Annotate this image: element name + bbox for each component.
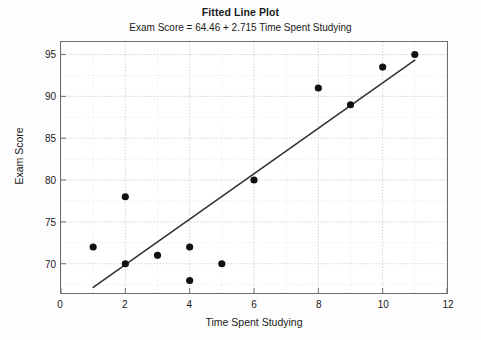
x-axis-ticks: 024681012 <box>60 299 448 315</box>
x-tick-label: 10 <box>368 299 398 310</box>
title-block: Fitted Line Plot Exam Score = 64.46 + 2.… <box>0 6 481 35</box>
fitted-line-plot: Fitted Line Plot Exam Score = 64.46 + 2.… <box>0 0 481 340</box>
y-tick-label: 90 <box>30 90 56 101</box>
data-point <box>154 252 161 259</box>
x-tick-label: 6 <box>239 299 269 310</box>
x-axis-title: Time Spent Studying <box>60 316 448 328</box>
regression-line <box>93 60 415 287</box>
data-point <box>122 193 129 200</box>
data-point <box>186 277 193 284</box>
data-point <box>250 176 257 183</box>
data-point <box>218 260 225 267</box>
data-point <box>122 260 129 267</box>
data-point <box>186 243 193 250</box>
x-tick-label: 0 <box>45 299 75 310</box>
y-tick-label: 80 <box>30 175 56 186</box>
data-point <box>379 64 386 71</box>
data-point <box>315 84 322 91</box>
data-point <box>411 51 418 58</box>
regression-equation: Exam Score = 64.46 + 2.715 Time Spent St… <box>0 21 481 35</box>
data-point <box>90 243 97 250</box>
x-tick-label: 4 <box>174 299 204 310</box>
y-tick-label: 75 <box>30 217 56 228</box>
y-axis-ticks: 707580859095 <box>26 41 56 294</box>
y-axis-title: Exam Score <box>13 111 25 201</box>
plot-canvas <box>61 42 447 293</box>
y-tick-label: 85 <box>30 132 56 143</box>
y-tick-label: 95 <box>30 48 56 59</box>
plot-area <box>60 41 448 294</box>
x-tick-label: 2 <box>110 299 140 310</box>
y-tick-label: 70 <box>30 259 56 270</box>
data-point <box>347 101 354 108</box>
x-tick-label: 12 <box>433 299 463 310</box>
x-tick-label: 8 <box>304 299 334 310</box>
page-title: Fitted Line Plot <box>0 6 481 19</box>
